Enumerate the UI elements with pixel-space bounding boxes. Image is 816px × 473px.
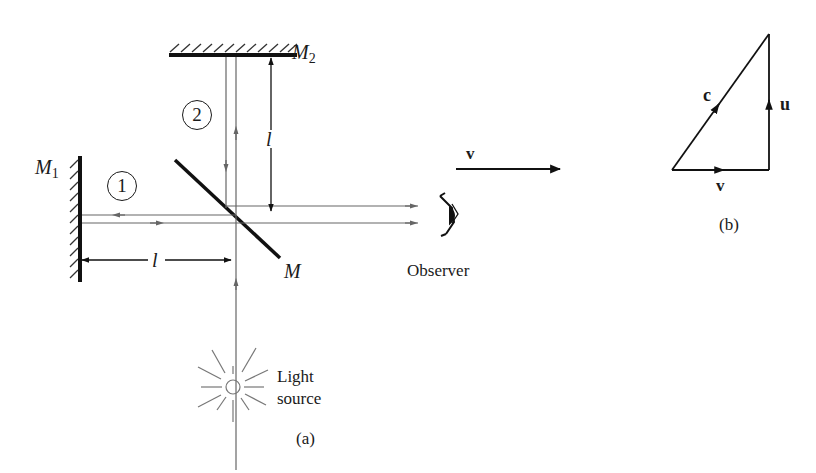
light-source-label-line2: source bbox=[277, 390, 321, 407]
caption-b: (b) bbox=[719, 216, 739, 233]
light-source-icon bbox=[198, 348, 268, 422]
light-source-label-line1: Light bbox=[277, 368, 314, 385]
diagram-drawing bbox=[0, 0, 816, 473]
vertical-length-label: l bbox=[266, 129, 272, 149]
mirror-m2 bbox=[169, 44, 297, 55]
u-vector-label: u bbox=[780, 95, 790, 113]
c-vector-label: c bbox=[703, 86, 711, 104]
mirror-m2-label: M2 bbox=[292, 42, 316, 66]
beam-splitter-label: M bbox=[284, 261, 301, 281]
velocity-label: v bbox=[466, 145, 475, 162]
v-vector-label: v bbox=[716, 177, 725, 194]
mirror-m1-label: M1 bbox=[35, 157, 59, 181]
caption-a: (a) bbox=[296, 430, 315, 447]
path-1-marker: 1 bbox=[107, 171, 137, 201]
horizontal-length-label: l bbox=[152, 250, 158, 270]
mirror-m1 bbox=[70, 156, 80, 282]
path-2-marker: 2 bbox=[182, 100, 212, 130]
michelson-interferometer-figure: M2 M1 M 2 1 l l v Observer Light source … bbox=[0, 0, 816, 473]
light-rays bbox=[82, 57, 418, 470]
beam-splitter bbox=[175, 160, 280, 258]
observer-label: Observer bbox=[407, 262, 469, 279]
eye-icon bbox=[440, 193, 458, 236]
velocity-triangle bbox=[672, 34, 769, 170]
